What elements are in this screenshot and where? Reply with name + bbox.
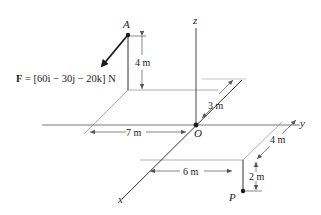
point-p-dot — [241, 189, 245, 193]
label-7m: 7 m — [126, 127, 142, 138]
force-equation: F = [60i − 30j − 20k] N — [16, 73, 116, 84]
force-components: = [60i − 30j − 20k] N — [22, 73, 116, 84]
label-6m: 6 m — [183, 166, 199, 177]
label-4m-a: 4 m — [135, 57, 151, 68]
moment-diagram: 4 m 7 m 3 m 6 m 4 m 2 m A P O z y x — [0, 0, 321, 215]
label-y-axis: y — [299, 117, 305, 129]
label-3m: 3 m — [208, 100, 224, 111]
diagram-canvas: 4 m 7 m 3 m 6 m 4 m 2 m A P O z y x — [0, 0, 321, 215]
force-arrow — [102, 36, 127, 66]
label-z-axis: z — [192, 14, 198, 26]
label-2m: 2 m — [249, 171, 265, 182]
label-x-axis: x — [117, 193, 123, 205]
dim-3m — [202, 80, 233, 118]
label-a: A — [122, 18, 130, 30]
label-p: P — [228, 191, 236, 203]
x-axis — [122, 80, 242, 199]
label-4m-p: 4 m — [270, 134, 286, 145]
point-a-dot — [126, 33, 130, 37]
construction-lines — [84, 79, 282, 160]
label-origin: O — [194, 127, 202, 139]
